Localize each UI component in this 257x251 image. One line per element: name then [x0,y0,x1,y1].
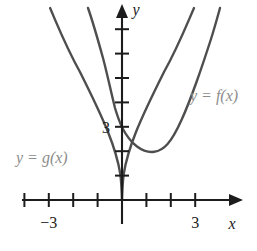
y-axis-label: y [130,1,140,19]
x-tick-label--3: −3 [40,214,57,231]
y-tick-label-3: 3 [102,119,110,136]
curve-label-g: y = g(x) [14,149,68,167]
x-axis-label: x [227,215,235,232]
figure-canvas: −3 3 3 x y y = f(x) y = g(x) [0,0,257,251]
x-tick-label-3: 3 [191,214,199,231]
x-axis-arrowhead [229,194,243,206]
curve-label-f: y = f(x) [188,87,238,105]
y-axis-arrowhead [116,4,128,18]
graph-svg: −3 3 3 x y y = f(x) y = g(x) [0,0,257,251]
